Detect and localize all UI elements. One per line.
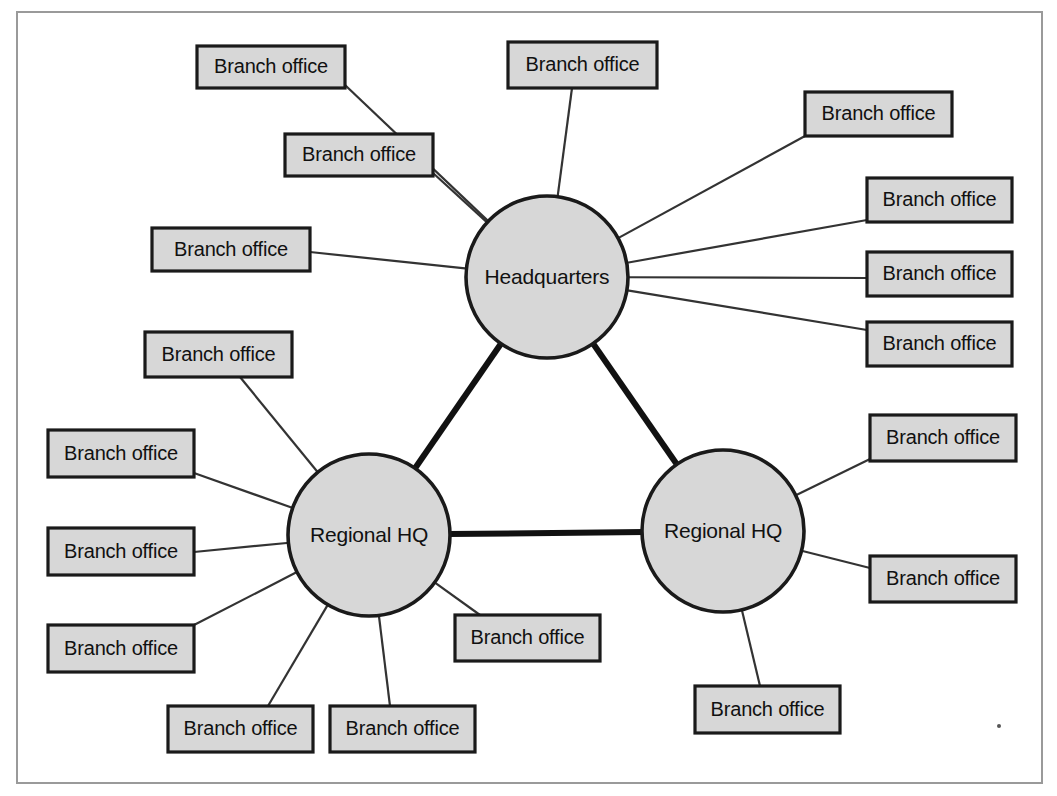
branch-link-b11 xyxy=(194,543,289,552)
branch-link-b16 xyxy=(795,459,870,496)
branch-office-label: Branch office xyxy=(886,567,1000,589)
branch-office-label: Branch office xyxy=(174,238,288,260)
branch-connector-lines xyxy=(194,85,870,706)
branch-link-b12 xyxy=(194,572,298,625)
branch-office-node[interactable]: Branch office xyxy=(870,415,1016,461)
branch-office-node[interactable]: Branch office xyxy=(867,322,1012,366)
branch-office-node[interactable]: Branch office xyxy=(48,430,194,477)
branch-office-label: Branch office xyxy=(64,637,178,659)
core-node-label: Headquarters xyxy=(485,265,610,288)
branch-office-node[interactable]: Branch office xyxy=(805,92,952,136)
branch-link-b03 xyxy=(310,252,467,269)
branch-office-label: Branch office xyxy=(526,53,640,75)
backbone-link-hq-to-regional-right xyxy=(592,342,678,466)
backbone-link-regional-left-to-regional-right xyxy=(448,532,644,534)
branch-office-label: Branch office xyxy=(822,102,936,124)
branch-office-node[interactable]: Branch office xyxy=(695,686,840,733)
branch-office-node[interactable]: Branch office xyxy=(168,706,313,752)
branch-link-b07 xyxy=(627,277,867,278)
branch-office-label: Branch office xyxy=(184,717,298,739)
branch-link-b08 xyxy=(626,290,867,330)
branch-office-label: Branch office xyxy=(64,442,178,464)
branch-link-b17 xyxy=(801,551,870,568)
branch-office-node[interactable]: Branch office xyxy=(48,528,194,575)
branch-office-node[interactable]: Branch office xyxy=(867,252,1012,296)
diagram-canvas: Branch officeBranch officeBranch officeB… xyxy=(0,0,1057,796)
branch-office-node[interactable]: Branch office xyxy=(152,228,310,271)
branch-office-nodes: Branch officeBranch officeBranch officeB… xyxy=(48,42,1016,752)
branch-office-label: Branch office xyxy=(214,55,328,77)
branch-link-b04 xyxy=(557,88,572,198)
branch-link-b15 xyxy=(434,582,480,615)
branch-office-label: Branch office xyxy=(711,698,825,720)
core-nodes: HeadquartersRegional HQRegional HQ xyxy=(288,196,804,616)
branch-office-node[interactable]: Branch office xyxy=(145,332,292,377)
branch-link-b02 xyxy=(433,173,488,223)
branch-office-node[interactable]: Branch office xyxy=(48,625,194,672)
branch-office-node[interactable]: Branch office xyxy=(508,42,657,88)
core-node-label: Regional HQ xyxy=(310,523,428,546)
core-node-regional-left[interactable]: Regional HQ xyxy=(288,454,450,616)
branch-office-label: Branch office xyxy=(883,262,997,284)
branch-office-node[interactable]: Branch office xyxy=(870,556,1016,602)
backbone-link-hq-to-regional-left xyxy=(414,342,502,470)
branch-office-node[interactable]: Branch office xyxy=(285,134,433,176)
branch-link-b05 xyxy=(617,136,805,239)
network-diagram: Branch officeBranch officeBranch officeB… xyxy=(0,0,1057,796)
branch-link-b14 xyxy=(379,614,390,706)
core-node-label: Regional HQ xyxy=(664,519,782,542)
branch-office-label: Branch office xyxy=(64,540,178,562)
branch-office-label: Branch office xyxy=(302,143,416,165)
branch-office-node[interactable]: Branch office xyxy=(330,706,475,752)
branch-link-b10 xyxy=(194,473,294,508)
branch-link-b06 xyxy=(626,220,867,263)
branch-office-label: Branch office xyxy=(886,426,1000,448)
branch-office-node[interactable]: Branch office xyxy=(867,178,1012,222)
branch-office-node[interactable]: Branch office xyxy=(197,46,345,88)
core-node-regional-right[interactable]: Regional HQ xyxy=(642,450,804,612)
branch-link-b13 xyxy=(268,604,328,706)
branch-office-label: Branch office xyxy=(346,717,460,739)
branch-link-b18 xyxy=(742,609,760,686)
backbone-connector-lines xyxy=(414,342,678,534)
branch-office-node[interactable]: Branch office xyxy=(455,615,600,661)
branch-office-label: Branch office xyxy=(883,332,997,354)
branch-office-label: Branch office xyxy=(162,343,276,365)
branch-office-label: Branch office xyxy=(471,626,585,648)
branch-office-label: Branch office xyxy=(883,188,997,210)
core-node-hq[interactable]: Headquarters xyxy=(466,196,628,358)
branch-link-b09 xyxy=(240,377,318,473)
speck-artifact xyxy=(997,724,1001,728)
